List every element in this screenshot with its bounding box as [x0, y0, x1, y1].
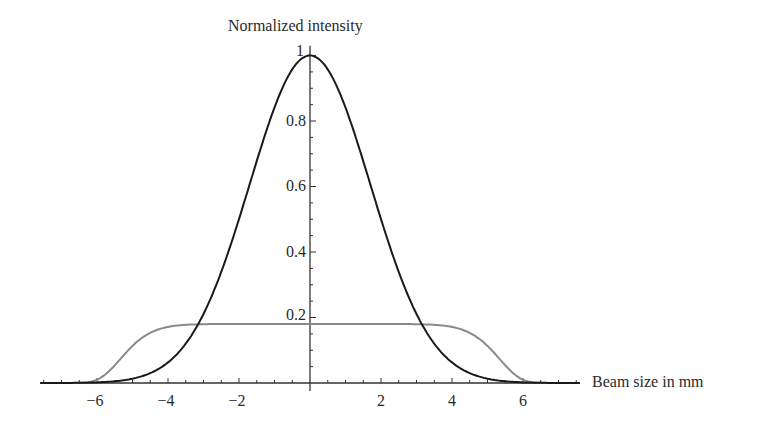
y-tick-label-0.6: 0.6 — [266, 177, 306, 195]
y-axis-label: Normalized intensity — [228, 17, 363, 35]
y-tick-label-0.4: 0.4 — [266, 243, 306, 261]
x-tick-label-4: 4 — [437, 392, 467, 410]
y-tick-label-0.2: 0.2 — [266, 306, 306, 324]
x-tick-label-6: 6 — [508, 392, 538, 410]
x-axis-label: Beam size in mm — [592, 373, 704, 391]
x-tick-label-neg2: −2 — [222, 392, 252, 410]
y-tick-label-0.8: 0.8 — [266, 112, 306, 130]
x-tick-label-2: 2 — [366, 392, 396, 410]
x-tick-label-neg4: −4 — [151, 392, 181, 410]
y-tick-label-1: 1 — [264, 42, 304, 60]
x-tick-label-neg6: −6 — [80, 392, 110, 410]
axes — [40, 46, 580, 391]
beam-profile-plot — [0, 0, 777, 426]
